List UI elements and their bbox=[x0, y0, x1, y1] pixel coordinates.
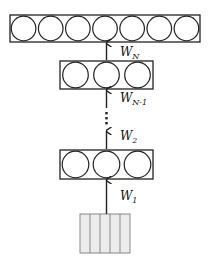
neuron-circle bbox=[93, 16, 118, 41]
input-box bbox=[80, 214, 130, 253]
weight-label-2: W2 bbox=[120, 129, 137, 145]
layers-group bbox=[10, 15, 200, 179]
layer-hidden-n-1 bbox=[60, 61, 153, 89]
input-block bbox=[80, 214, 130, 253]
layer-output bbox=[10, 15, 200, 42]
neuron-circle bbox=[174, 16, 199, 41]
neuron-circle bbox=[124, 151, 151, 178]
neuron-circle bbox=[63, 62, 89, 88]
neuron-circle bbox=[125, 62, 151, 88]
neural-network-diagram: WNWN-1W2W1 bbox=[0, 0, 210, 265]
neuron-circle bbox=[38, 16, 63, 41]
neuron-circle bbox=[120, 16, 145, 41]
neuron-circle bbox=[94, 62, 120, 88]
neuron-circle bbox=[66, 16, 91, 41]
layer-hidden-1 bbox=[60, 150, 153, 179]
weight-label-1: W1 bbox=[120, 189, 137, 205]
neuron-circle bbox=[11, 16, 36, 41]
neuron-circle bbox=[147, 16, 172, 41]
weight-label-n-1: WN-1 bbox=[120, 91, 147, 107]
neuron-circle bbox=[62, 151, 89, 178]
neuron-circle bbox=[93, 151, 120, 178]
weight-label-n: WN bbox=[120, 45, 140, 61]
ellipsis-dots bbox=[105, 112, 107, 124]
